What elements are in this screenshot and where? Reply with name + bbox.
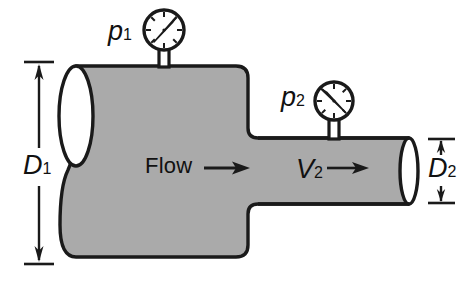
small-pipe-opening xyxy=(400,138,418,204)
label-velocity-2: V2 xyxy=(296,156,323,183)
label-pressure-1: p1 xyxy=(108,18,132,45)
label-pressure-1-subscript: 1 xyxy=(123,26,132,43)
label-pressure-2-subscript: 2 xyxy=(296,92,305,109)
diagram-canvas xyxy=(0,0,470,288)
gauge-p1-hub xyxy=(162,28,165,31)
pipe-body-fill xyxy=(60,66,409,257)
label-pressure-1-symbol: p xyxy=(108,16,123,46)
label-pressure-2-symbol: p xyxy=(281,82,296,112)
label-diameter-2: D2 xyxy=(428,155,456,182)
label-diameter-1-symbol: D xyxy=(23,150,43,180)
label-diameter-2-symbol: D xyxy=(428,153,448,183)
label-diameter-1: D1 xyxy=(23,152,51,179)
label-velocity-2-subscript: 2 xyxy=(314,164,323,181)
pipe-contraction-figure: p1 p2 D1 D2 Flow V2 xyxy=(0,0,470,288)
label-velocity-2-symbol: V xyxy=(296,154,314,184)
label-pressure-2: p2 xyxy=(281,84,305,111)
label-flow: Flow xyxy=(145,155,192,177)
gauge-p1 xyxy=(144,10,184,67)
gauge-p2-hub xyxy=(332,99,335,102)
large-pipe-opening xyxy=(59,66,93,166)
pipe-assembly xyxy=(59,66,418,257)
gauge-p2 xyxy=(315,82,353,139)
label-diameter-1-subscript: 1 xyxy=(43,160,52,177)
label-diameter-2-subscript: 2 xyxy=(448,163,457,180)
